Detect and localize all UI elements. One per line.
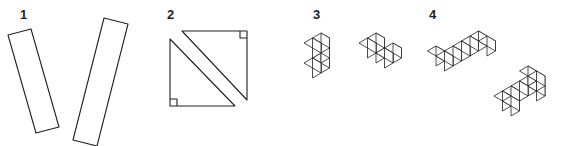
figure-4-solid-upper (428, 31, 496, 71)
figure-1 (8, 18, 128, 146)
figure-3-solid-right (359, 33, 402, 68)
figure-3-solid-left (304, 33, 330, 78)
figures-canvas (0, 0, 562, 146)
figure-4-solid-lower (494, 66, 545, 116)
rectangle-right (73, 18, 128, 146)
figure-2 (170, 31, 247, 106)
rectangle-left (8, 29, 59, 133)
